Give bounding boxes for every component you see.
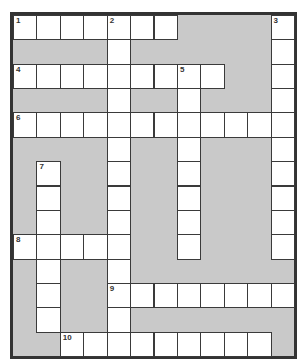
crossword-cell[interactable]: [177, 186, 201, 211]
crossword-cell[interactable]: [200, 332, 224, 357]
clue-number: 10: [63, 334, 72, 342]
crossword-cell[interactable]: 1: [13, 15, 37, 40]
crossword-cell[interactable]: [36, 64, 60, 89]
crossword-cell[interactable]: [36, 283, 60, 308]
crossword-cell[interactable]: [271, 283, 295, 308]
clue-number: 6: [16, 114, 20, 122]
crossword-cell[interactable]: [271, 137, 295, 162]
crossword-cell[interactable]: 10: [60, 332, 84, 357]
crossword-cell[interactable]: [224, 283, 248, 308]
crossword-cell[interactable]: [271, 161, 295, 186]
crossword-cell[interactable]: 8: [13, 234, 37, 259]
crossword-cell[interactable]: 7: [36, 161, 60, 186]
crossword-cell[interactable]: [200, 64, 224, 89]
crossword-cell[interactable]: [83, 112, 107, 137]
crossword-cell[interactable]: [60, 234, 84, 259]
crossword-cell[interactable]: [200, 283, 224, 308]
crossword-cell[interactable]: [130, 112, 154, 137]
crossword-cell[interactable]: 3: [271, 15, 295, 40]
crossword-cell[interactable]: [247, 112, 271, 137]
crossword-cell[interactable]: [177, 137, 201, 162]
crossword-cell[interactable]: [224, 112, 248, 137]
crossword-cell[interactable]: [107, 39, 131, 64]
crossword-cell[interactable]: [60, 64, 84, 89]
crossword-cell[interactable]: [60, 15, 84, 40]
clue-number: 5: [180, 66, 184, 74]
clue-number: 1: [16, 17, 20, 25]
crossword-cell[interactable]: [36, 259, 60, 284]
crossword-cell[interactable]: 5: [177, 64, 201, 89]
crossword-cell[interactable]: [107, 332, 131, 357]
crossword-cell[interactable]: [107, 186, 131, 211]
crossword-cell[interactable]: 2: [107, 15, 131, 40]
crossword-cell[interactable]: [271, 186, 295, 211]
crossword-cell[interactable]: [107, 234, 131, 259]
crossword-cell[interactable]: [107, 112, 131, 137]
crossword-cell[interactable]: [177, 283, 201, 308]
crossword-cell[interactable]: [154, 15, 178, 40]
crossword-cell[interactable]: [83, 332, 107, 357]
clue-number: 9: [110, 285, 114, 293]
clue-number: 4: [16, 66, 20, 74]
crossword-cell[interactable]: 6: [13, 112, 37, 137]
clue-number: 8: [16, 236, 20, 244]
crossword-cell[interactable]: [130, 15, 154, 40]
crossword-cell[interactable]: [107, 161, 131, 186]
crossword-cell[interactable]: [107, 64, 131, 89]
crossword-grid: 12934567810: [10, 12, 297, 359]
crossword-cell[interactable]: [130, 283, 154, 308]
crossword-cell[interactable]: [154, 283, 178, 308]
crossword-cell[interactable]: [271, 234, 295, 259]
crossword-cell[interactable]: [154, 332, 178, 357]
crossword-cell[interactable]: [130, 332, 154, 357]
crossword-cell[interactable]: [36, 186, 60, 211]
crossword-cell[interactable]: [107, 210, 131, 235]
crossword-cell[interactable]: [36, 15, 60, 40]
crossword-cell[interactable]: [177, 234, 201, 259]
crossword-cell[interactable]: [177, 161, 201, 186]
crossword-cell[interactable]: 9: [107, 283, 131, 308]
crossword-cell[interactable]: [107, 259, 131, 284]
crossword-cell[interactable]: [177, 112, 201, 137]
crossword-cell[interactable]: [60, 112, 84, 137]
crossword-cell[interactable]: [36, 307, 60, 332]
crossword-cell[interactable]: [83, 64, 107, 89]
crossword-cell[interactable]: [83, 234, 107, 259]
crossword-cell[interactable]: [177, 88, 201, 113]
crossword-cell[interactable]: [247, 283, 271, 308]
crossword-cell[interactable]: [177, 210, 201, 235]
crossword-cell[interactable]: [36, 234, 60, 259]
crossword-cell[interactable]: [36, 112, 60, 137]
crossword-cell[interactable]: [224, 332, 248, 357]
crossword-cell[interactable]: [130, 64, 154, 89]
crossword-cell[interactable]: [271, 88, 295, 113]
crossword-cell[interactable]: [107, 307, 131, 332]
crossword-cell[interactable]: [247, 332, 271, 357]
crossword-cell[interactable]: [83, 15, 107, 40]
crossword-cell[interactable]: [36, 210, 60, 235]
crossword-cell[interactable]: [154, 64, 178, 89]
clue-number: 2: [110, 17, 114, 25]
crossword-cell[interactable]: [200, 112, 224, 137]
crossword-cell[interactable]: 4: [13, 64, 37, 89]
clue-number: 3: [274, 17, 278, 25]
crossword-cell[interactable]: [271, 64, 295, 89]
crossword-cell[interactable]: [107, 137, 131, 162]
crossword-cell[interactable]: [271, 112, 295, 137]
crossword-cell[interactable]: [271, 39, 295, 64]
crossword-cell[interactable]: [177, 332, 201, 357]
clue-number: 7: [39, 163, 43, 171]
crossword-cell[interactable]: [154, 112, 178, 137]
crossword-cell[interactable]: [271, 210, 295, 235]
crossword-cell[interactable]: [107, 88, 131, 113]
